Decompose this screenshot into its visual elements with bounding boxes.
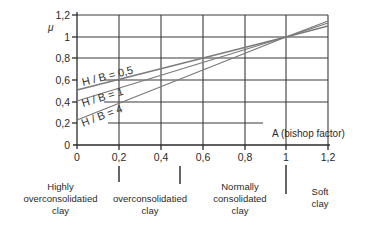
region-label-normally-consolidated: Normally consolidated clay [200, 181, 280, 217]
x-tick-0.8: 0,8 [238, 151, 253, 163]
x-tick-0: 0 [74, 151, 80, 163]
region-label-overconsolidated: overconsolidatied clay [106, 193, 194, 217]
y-tick-labels: 1,2 1 0,8 0,6 0,4 0,2 0 [55, 9, 70, 151]
x-tick-labels: 0 0,2 0,4 0,6 0,8 1 1,2 [74, 151, 335, 163]
x-tick-0.4: 0,4 [154, 151, 169, 163]
y-tick-0.2: 0,2 [55, 117, 70, 129]
region-label-soft-clay: Soft clay [300, 186, 340, 210]
y-tick-0.6: 0,6 [55, 74, 70, 86]
region-text-line: clay [18, 205, 103, 217]
region-text-line: overconsolidatied [106, 193, 194, 205]
y-tick-0.4: 0,4 [55, 96, 70, 108]
region-text-line: consolidated [200, 193, 280, 205]
x-tick-1.2: 1,2 [321, 151, 336, 163]
region-text-line: clay [300, 198, 340, 210]
x-axis-label: A (bishop factor) [272, 128, 345, 139]
y-axis-label: μ [47, 22, 54, 33]
region-text-line: clay [106, 205, 194, 217]
y-tick-1.2: 1,2 [55, 9, 70, 21]
region-text-line: clay [200, 205, 280, 217]
region-text-line: Highly [18, 181, 103, 193]
y-tick-1: 1 [64, 31, 70, 43]
curve-label-hb-0.5: H / B = 0,5 [81, 64, 135, 88]
y-tick-0.8: 0,8 [55, 52, 70, 64]
x-tick-1: 1 [283, 151, 289, 163]
region-text-line: overconsolidatied [18, 193, 103, 205]
region-text-line: Soft [300, 186, 340, 198]
region-text-line: Normally [200, 181, 280, 193]
region-label-highly-overconsolidated: Highly overconsolidatied clay [18, 181, 103, 217]
y-tick-0: 0 [64, 139, 70, 151]
x-tick-0.2: 0,2 [112, 151, 127, 163]
x-tick-0.6: 0,6 [196, 151, 211, 163]
